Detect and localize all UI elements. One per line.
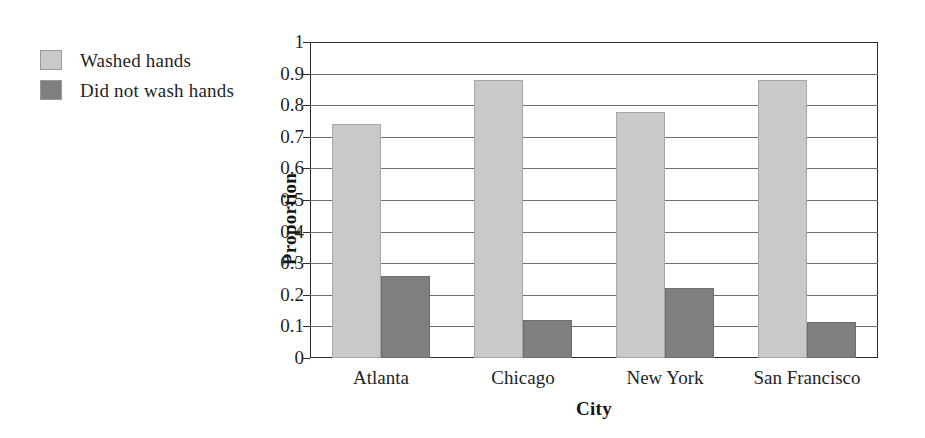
x-tick-label: Chicago [443,368,603,387]
y-tick-mark [303,74,310,75]
legend-swatch-washed-icon [40,50,62,70]
y-tick-label: 0.5 [244,190,304,209]
y-tick-mark [303,295,310,296]
y-tick-label: 0.3 [244,253,304,272]
x-axis-title: City [310,398,878,420]
bar-san-francisco-washed [758,80,807,358]
y-tick-mark [303,105,310,106]
y-tick-mark [303,42,310,43]
y-tick-label: 0 [244,348,304,367]
x-tick-label: Atlanta [301,368,461,387]
y-tick-label: 1 [244,32,304,51]
y-tick-label: 0.2 [244,285,304,304]
bar-chicago-washed [474,80,523,358]
y-tick-mark [303,232,310,233]
y-tick-label: 0.8 [244,95,304,114]
x-tick-label: San Francisco [727,368,887,387]
x-tick-label: New York [585,368,745,387]
bar-group-container [310,42,878,358]
y-tick-label: 0.4 [244,222,304,241]
y-tick-mark [303,200,310,201]
figure: Washed hands Did not wash hands Proporti… [0,0,925,438]
y-tick-mark [303,358,310,359]
bar-chicago-not-washed [523,320,572,358]
bar-atlanta-not-washed [381,276,430,358]
y-tick-label: 0.7 [244,127,304,146]
plot-area [310,42,878,358]
y-tick-label: 0.6 [244,158,304,177]
y-tick-mark [303,137,310,138]
y-tick-label: 0.1 [244,316,304,335]
bar-new-york-washed [616,112,665,358]
legend-label-not-washed: Did not wash hands [80,81,234,100]
bar-new-york-not-washed [665,288,714,358]
legend-label-washed: Washed hands [80,51,191,70]
y-tick-label: 0.9 [244,64,304,83]
y-tick-mark [303,168,310,169]
bar-atlanta-washed [332,124,381,358]
bar-san-francisco-not-washed [807,322,856,358]
legend-swatch-not-washed-icon [40,80,62,100]
y-tick-mark [303,326,310,327]
y-tick-mark [303,263,310,264]
